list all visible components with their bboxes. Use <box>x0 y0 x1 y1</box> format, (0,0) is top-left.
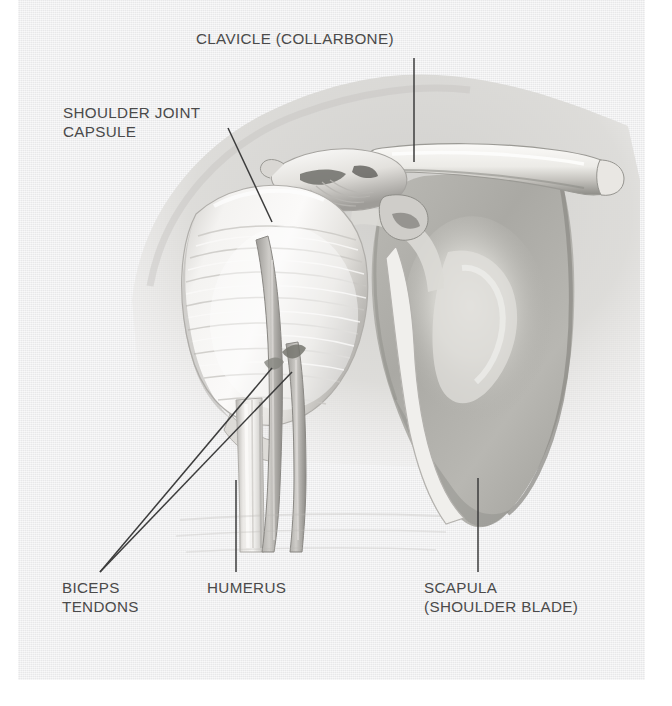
label-scapula: SCAPULA (SHOULDER BLADE) <box>424 578 578 616</box>
label-clavicle: CLAVICLE (COLLARBONE) <box>196 29 394 48</box>
humerus-structure <box>236 398 264 552</box>
label-humerus: HUMERUS <box>207 578 286 597</box>
label-biceps-tendons: BICEPS TENDONS <box>62 578 139 616</box>
label-shoulder-joint-capsule: SHOULDER JOINT CAPSULE <box>63 103 200 141</box>
anatomy-figure: CLAVICLE (COLLARBONE) SHOULDER JOINT CAP… <box>0 0 672 706</box>
